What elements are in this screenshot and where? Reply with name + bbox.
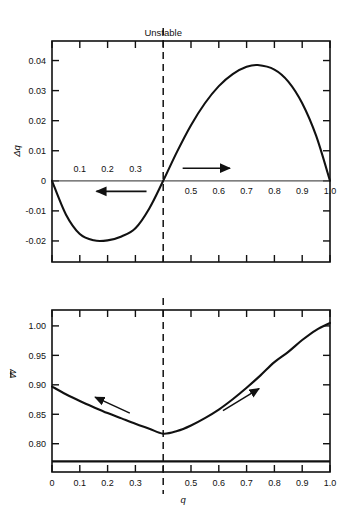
x-tick-label-bottom: 0.6 [213, 478, 226, 488]
x-tick-label-bottom: 0 [49, 478, 54, 488]
x-tick-label-above-zero: 0.3 [129, 164, 142, 174]
x-tick-label-below-zero: 0.9 [296, 186, 309, 196]
y-tick-label-bottom: 0.80 [28, 439, 46, 449]
x-tick-label-bottom: 0.5 [185, 478, 198, 488]
y-tick-label-top: -0.02 [25, 236, 46, 246]
x-tick-label-below-zero: 0.5 [185, 186, 198, 196]
x-axis-label-q: q [181, 494, 187, 505]
y-tick-label-bottom: 0.95 [28, 351, 46, 361]
y-tick-label-bottom: 1.00 [28, 321, 46, 331]
y-tick-label-top: 0.04 [28, 56, 46, 66]
x-tick-label-bottom: 0.2 [101, 478, 114, 488]
x-tick-label-bottom: 0.1 [74, 478, 87, 488]
x-tick-label-bottom: 0.7 [240, 478, 253, 488]
x-tick-label-bottom: 1.0 [324, 478, 337, 488]
y-tick-label-top: 0 [41, 176, 46, 186]
x-tick-labels-above-zero-top: 0.10.20.3 [74, 164, 142, 174]
figure-svg: Unstable 0.10.20.3 0.50.60.70.80.91.0 -0… [0, 0, 344, 511]
x-tick-label-below-zero: 0.7 [240, 186, 253, 196]
y-tick-label-top: -0.01 [25, 206, 46, 216]
y-tick-label-bottom: 0.85 [28, 410, 46, 420]
y-tick-label-bottom: 0.90 [28, 380, 46, 390]
svg-text:W: W [7, 368, 18, 378]
x-tick-label-bottom: 0.8 [268, 478, 281, 488]
y-tick-label-top: 0.03 [28, 86, 46, 96]
x-tick-label-below-zero: 0.6 [213, 186, 226, 196]
figure-root: Unstable 0.10.20.3 0.50.60.70.80.91.0 -0… [0, 0, 344, 511]
x-tick-label-bottom: 0.9 [296, 478, 309, 488]
x-tick-label-below-zero: 0.8 [268, 186, 281, 196]
y-tick-label-top: 0.02 [28, 116, 46, 126]
x-tick-label-above-zero: 0.1 [74, 164, 87, 174]
x-tick-label-below-zero: 1.0 [324, 186, 337, 196]
x-tick-label-bottom: 0.3 [129, 478, 142, 488]
y-axis-label-mean-fitness: W [7, 368, 18, 378]
y-tick-label-top: 0.01 [28, 146, 46, 156]
y-axis-label-delta-q: Δq [11, 144, 22, 157]
x-tick-label-above-zero: 0.2 [101, 164, 114, 174]
